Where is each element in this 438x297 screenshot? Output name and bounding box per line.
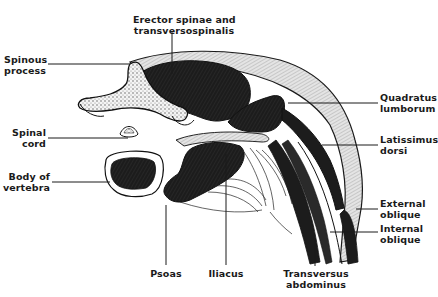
label-erector-spinae: Erector spinae and transversospinalis: [133, 14, 235, 36]
label-spinous-line1: Spinous: [4, 54, 46, 65]
label-latissimus-dorsi: Latissimus dorsi: [380, 134, 438, 156]
label-internal-line1: Internal: [380, 223, 423, 234]
label-spinal-cord: Spinal cord: [4, 127, 46, 149]
label-external-oblique: External oblique: [380, 198, 426, 220]
label-body-of-vertebra: Body of vertebra: [2, 171, 50, 193]
label-erector-line2: transversospinalis: [133, 25, 235, 36]
label-transversus-line2: abdominus: [282, 279, 350, 290]
label-psoas: Psoas: [146, 268, 186, 279]
label-body-line1: Body of: [2, 171, 50, 182]
label-external-line2: oblique: [380, 209, 426, 220]
vertebral-body: [105, 151, 163, 197]
label-transversus-abdominus: Transversus abdominus: [282, 268, 350, 290]
label-spinous-process: Spinous process: [4, 54, 46, 76]
psoas-iliacus-muscle: [164, 142, 244, 202]
label-spinous-line2: process: [4, 65, 46, 76]
spinal-cord: [120, 127, 138, 138]
label-spinal-cord-line2: cord: [4, 138, 46, 149]
label-quadratus-line1: Quadratus: [380, 92, 437, 103]
label-latissimus-line2: dorsi: [380, 145, 438, 156]
label-external-line1: External: [380, 198, 426, 209]
label-iliacus-line1: Iliacus: [204, 268, 248, 279]
label-spinal-cord-line1: Spinal: [4, 127, 46, 138]
label-internal-line2: oblique: [380, 234, 423, 245]
label-latissimus-line1: Latissimus: [380, 134, 438, 145]
label-quadratus-line2: lumborum: [380, 103, 437, 114]
label-internal-oblique: Internal oblique: [380, 223, 423, 245]
label-body-line2: vertebra: [2, 182, 50, 193]
abdominal-wall-layers: [268, 140, 342, 264]
label-psoas-line1: Psoas: [146, 268, 186, 279]
label-erector-line1: Erector spinae and: [133, 14, 235, 25]
label-quadratus-lumborum: Quadratus lumborum: [380, 92, 437, 114]
label-transversus-line1: Transversus: [282, 268, 350, 279]
label-iliacus: Iliacus: [204, 268, 248, 279]
